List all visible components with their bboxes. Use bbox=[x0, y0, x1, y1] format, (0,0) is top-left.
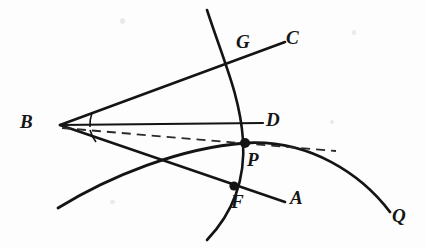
label-b: B bbox=[20, 112, 33, 131]
label-c: C bbox=[286, 28, 299, 47]
ray-bc bbox=[60, 42, 285, 125]
point-p-dot bbox=[240, 138, 250, 148]
label-p: P bbox=[247, 150, 259, 169]
label-q: Q bbox=[392, 206, 406, 225]
curve-q-conic bbox=[58, 143, 390, 212]
label-d: D bbox=[266, 110, 280, 129]
point-f-dot bbox=[229, 181, 238, 190]
geometry-figure: B G C D P F A Q bbox=[0, 0, 426, 249]
geometry-canvas bbox=[0, 0, 426, 249]
label-g: G bbox=[236, 32, 250, 51]
label-f: F bbox=[231, 192, 244, 211]
label-a: A bbox=[290, 188, 303, 207]
